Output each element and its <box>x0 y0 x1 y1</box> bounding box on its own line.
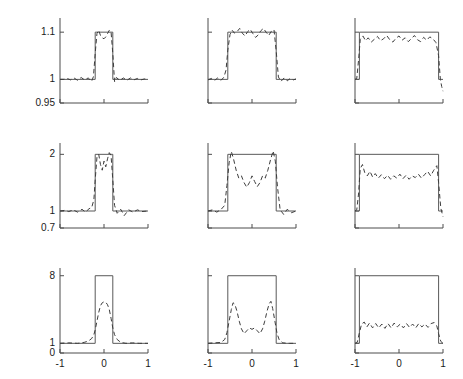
series-dashed <box>355 165 443 217</box>
axis-spines <box>355 268 443 353</box>
x-tick-label: 0 <box>89 359 119 369</box>
y-tick-label: 1.1 <box>41 27 55 37</box>
plot-panel-row3-col2 <box>194 254 310 367</box>
y-tick-label: 0 <box>49 348 55 358</box>
series-dashed <box>60 30 148 81</box>
axis-spines <box>60 268 148 353</box>
plot-canvas <box>194 254 310 367</box>
y-tick-label: 1 <box>49 74 55 84</box>
series-solid <box>355 276 443 344</box>
plot-panel-row3-col3 <box>341 254 457 367</box>
x-tick-label: 1 <box>428 359 458 369</box>
x-tick-label: -1 <box>45 359 75 369</box>
plot-panel-row1-col3 <box>341 4 457 117</box>
plot-canvas <box>194 129 310 242</box>
series-solid <box>355 32 443 79</box>
plot-canvas <box>341 254 457 367</box>
axis-spines <box>60 143 148 228</box>
x-tick-label: 0 <box>384 359 414 369</box>
series-dashed <box>355 322 443 343</box>
y-tick-label: 1 <box>49 206 55 216</box>
y-tick-label: 8 <box>49 271 55 281</box>
series-dashed <box>208 151 296 214</box>
axis-spines <box>208 143 296 228</box>
plot-panel-row1-col2 <box>194 4 310 117</box>
plot-panel-row2-col3 <box>341 129 457 242</box>
x-tick-label: 1 <box>133 359 163 369</box>
axis-spines <box>60 18 148 103</box>
series-solid <box>60 276 148 344</box>
plot-panel-row1-col1 <box>46 4 162 117</box>
x-tick-label: 1 <box>281 359 311 369</box>
series-solid <box>208 154 296 211</box>
plot-panel-row2-col2 <box>194 129 310 242</box>
series-dashed <box>208 28 296 81</box>
axis-spines <box>355 143 443 228</box>
plot-canvas <box>46 4 162 117</box>
figure-grid: 0.9511.10.712018-101-101-101 <box>0 0 463 379</box>
plot-canvas <box>341 4 457 117</box>
series-solid <box>208 32 296 79</box>
series-dashed <box>60 302 148 344</box>
series-solid <box>355 154 443 211</box>
axis-spines <box>355 18 443 103</box>
plot-panel-row3-col1 <box>46 254 162 367</box>
series-solid <box>208 276 296 344</box>
plot-panel-row2-col1 <box>46 129 162 242</box>
y-tick-label: 0.95 <box>36 98 55 108</box>
x-tick-label: 0 <box>237 359 267 369</box>
plot-canvas <box>341 129 457 242</box>
axis-spines <box>208 268 296 353</box>
x-tick-label: -1 <box>340 359 370 369</box>
series-dashed <box>355 35 443 91</box>
y-tick-label: 1 <box>49 338 55 348</box>
plot-canvas <box>46 129 162 242</box>
series-dashed <box>60 153 148 216</box>
y-tick-label: 0.7 <box>41 223 55 233</box>
x-tick-label: -1 <box>193 359 223 369</box>
plot-canvas <box>194 4 310 117</box>
y-tick-label: 2 <box>49 149 55 159</box>
series-dashed <box>208 301 296 343</box>
plot-canvas <box>46 254 162 367</box>
axis-spines <box>208 18 296 103</box>
